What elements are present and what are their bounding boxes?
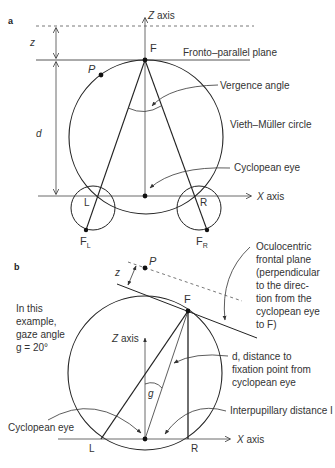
fovea-left-point	[84, 228, 88, 232]
F-label-b: F	[184, 293, 191, 305]
point-P-b	[143, 266, 148, 271]
z-axis-label-b: Z axis	[111, 333, 139, 344]
fovea-right-point	[205, 228, 209, 232]
R-label: R	[200, 197, 207, 208]
cyclopean-label-a: Cyclopean eye	[234, 162, 301, 173]
L-label: L	[84, 197, 90, 208]
vergence-pointer-arrow	[152, 85, 218, 106]
vieth-muller-circle	[69, 60, 223, 214]
P-label-b: P	[149, 255, 157, 267]
cyclopean-label-b: Cyclopean eye	[8, 422, 75, 433]
left-line-of-sight	[86, 60, 145, 230]
cyclopean-eye-point-b	[143, 437, 148, 442]
fixation-point-F-b	[186, 309, 191, 314]
example-text: In this example, gaze angle g = 20°	[16, 303, 68, 353]
panel-b: b In this example, gaze angle g = 20° Oc…	[8, 241, 333, 454]
binocular-geometry-diagram: a Fronto–parallel plane z d Z axis X axi…	[0, 0, 335, 468]
cyclopean-gaze-line	[145, 311, 188, 439]
z-axis-label: Z axis	[147, 10, 175, 21]
FL-label: FL	[80, 235, 91, 249]
g-label: g	[148, 388, 154, 399]
interpupillary-label: Interpupillary distance I	[230, 405, 333, 416]
oculocentric-text: Oculocentric frontal plane (perpendicula…	[256, 241, 323, 330]
distance-text: d, distance to fixation point from cyclo…	[232, 351, 314, 388]
FR-label: FR	[196, 235, 208, 249]
x-axis-label: X axis	[256, 191, 284, 202]
vieth-muller-label: Vieth–Müller circle	[230, 119, 312, 130]
L-label-b: L	[89, 443, 95, 454]
interpupillary-pointer-arrow	[165, 408, 226, 434]
panel-a-tag: a	[8, 16, 14, 26]
right-line-of-sight	[145, 60, 207, 230]
fronto-parallel-label: Fronto–parallel plane	[183, 47, 277, 58]
F-label: F	[150, 42, 157, 54]
d-label: d	[36, 128, 42, 139]
vergence-angle-arc	[128, 106, 161, 112]
z-label: z	[29, 37, 35, 48]
panel-b-tag: b	[14, 262, 20, 272]
z-dimension-arrow-b	[128, 266, 136, 285]
P-label: P	[88, 63, 96, 75]
z-label-b: z	[114, 267, 120, 278]
fixation-point-F	[143, 58, 148, 63]
cyclopean-eye-point	[143, 194, 148, 199]
panel-a: a Fronto–parallel plane z d Z axis X axi…	[8, 10, 312, 249]
left-line-of-sight-b	[101, 311, 188, 439]
oculocentric-pointer-arrow	[224, 247, 250, 320]
point-P	[99, 73, 104, 78]
x-axis-label-b: X axis	[236, 434, 264, 445]
R-label-b: R	[191, 443, 198, 454]
vergence-label: Vergence angle	[220, 80, 290, 91]
